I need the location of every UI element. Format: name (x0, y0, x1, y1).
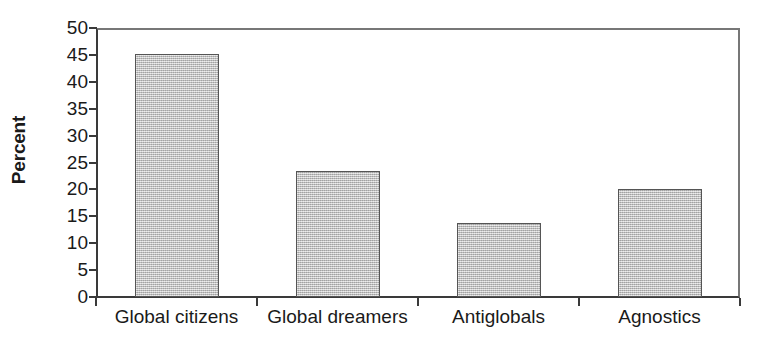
x-axis-tick-mark (256, 298, 258, 306)
y-axis-tick-label: 50 (44, 18, 88, 37)
x-axis-category-label: Global dreamers (257, 306, 418, 328)
y-axis-title: Percent (8, 100, 30, 200)
y-axis-tick-mark (89, 108, 97, 110)
y-axis-tick-label: 15 (44, 206, 88, 225)
x-axis-tick-mark (417, 298, 419, 306)
y-axis-tick-mark (89, 81, 97, 83)
y-axis-tick-mark (89, 162, 97, 164)
y-axis-tick-label: 40 (44, 72, 88, 91)
x-axis-category-label: Global citizens (96, 306, 257, 328)
plot-area (96, 28, 740, 298)
y-axis-tick-mark (89, 215, 97, 217)
y-axis-tick-label: 45 (44, 45, 88, 64)
y-axis-tick-label: 0 (44, 287, 88, 306)
y-axis-tick-mark (89, 188, 97, 190)
y-axis-tick-label: 10 (44, 233, 88, 252)
y-axis-tick-label: 20 (44, 179, 88, 198)
y-axis-tick-mark (89, 54, 97, 56)
y-axis-tick-label: 25 (44, 153, 88, 172)
bar-chart: Percent 50454035302520151050 Global citi… (0, 0, 767, 352)
x-axis-category-label: Antiglobals (418, 306, 579, 328)
y-axis-tick-label: 35 (44, 99, 88, 118)
x-axis-tick-mark (95, 298, 97, 306)
y-axis-tick-mark (89, 242, 97, 244)
y-axis-tick-label: 5 (44, 260, 88, 279)
y-axis-tick-mark (89, 135, 97, 137)
y-axis-tick-label: 30 (44, 126, 88, 145)
x-axis-tick-mark (578, 298, 580, 306)
y-axis-tick-labels: 50454035302520151050 (44, 0, 88, 352)
y-axis-tick-mark (89, 269, 97, 271)
x-axis-category-label: Agnostics (579, 306, 740, 328)
y-axis-tick-mark (89, 27, 97, 29)
x-axis-tick-mark (739, 298, 741, 306)
